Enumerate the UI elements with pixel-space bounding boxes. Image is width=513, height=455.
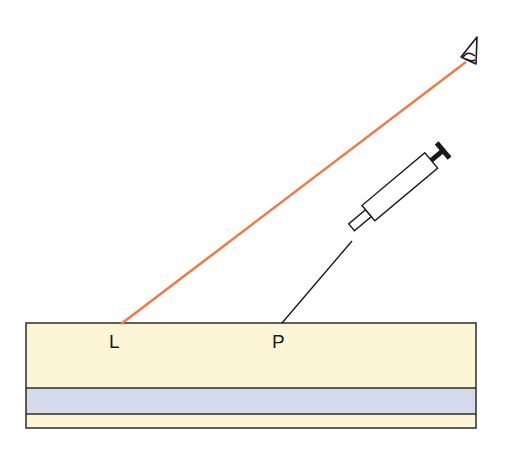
upper-layer — [26, 323, 476, 388]
sight-line — [121, 62, 466, 324]
tissue-layers — [26, 323, 476, 428]
label-P: P — [272, 331, 285, 352]
lower-layer — [26, 414, 476, 428]
label-L: L — [109, 331, 120, 352]
diagram-canvas: L P — [0, 0, 513, 455]
syringe-icon — [345, 141, 451, 235]
eye-icon — [461, 37, 477, 64]
needle — [282, 241, 352, 323]
syringe-barrel — [362, 153, 438, 221]
middle-band — [26, 388, 476, 414]
